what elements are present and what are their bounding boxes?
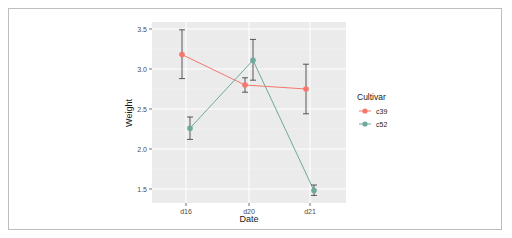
y-axis: 1.52.02.53.03.5 [137,26,152,193]
legend-key-icon [362,108,367,113]
x-axis-title: Date [239,214,258,224]
y-tick-label: 2.0 [137,146,147,153]
y-tick-label: 1.5 [137,186,147,193]
line-chart: 1.52.02.53.03.5 d16d20d21 Date Weight Cu… [0,0,512,238]
data-point [179,52,185,58]
data-point [311,188,317,194]
legend-item-c39: c39 [359,108,387,115]
legend-item-c52: c52 [359,121,387,128]
y-tick-label: 3.5 [137,26,147,33]
legend-label: c39 [376,108,387,115]
data-point [187,125,193,131]
legend-label: c52 [376,121,387,128]
y-axis-title: Weight [124,99,134,127]
x-tick-label: d16 [180,208,192,215]
legend: Cultivar c39c52 [357,92,387,128]
data-point [250,57,256,63]
legend-title: Cultivar [357,92,386,102]
data-point [303,86,309,92]
y-tick-label: 2.5 [137,106,147,113]
legend-key-icon [362,121,367,126]
data-point [242,82,248,88]
x-tick-label: d21 [304,208,316,215]
y-tick-label: 3.0 [137,66,147,73]
